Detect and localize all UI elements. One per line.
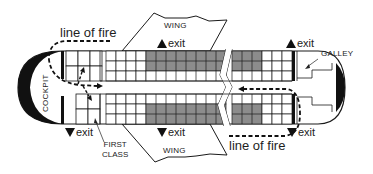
exit-label: exit [298,126,315,138]
aft-seats-top [232,51,292,81]
cockpit-bulkhead-top [61,51,64,79]
cockpit-bulkhead-bottom [61,96,64,124]
arrow-back-icon [238,86,244,92]
first-class-seats-top [66,51,102,81]
line-of-fire-label-bottom: line of fire [229,139,285,152]
exit-down-arrow-icon [65,128,75,137]
exit-up-arrow-icon [157,39,167,48]
exit-bottom-front: exit [65,127,93,138]
aft-seats-bottom [232,94,292,124]
exit-top-rear: exit [286,38,314,49]
economy-front-seats-bottom [106,94,146,124]
exit-bottom-wing: exit [157,127,185,138]
cockpit-nose-fill [18,51,62,124]
exit-label: exit [168,37,185,49]
economy-front-seats-top [106,51,146,81]
wing-label-bottom: WING [163,147,186,155]
arrow-forward-icon [97,83,103,89]
galley-label: GALLEY [321,50,353,58]
cockpit-label: COCKPIT [41,74,50,112]
rear-bulkhead-bottom [292,94,295,124]
exit-up-arrow-icon [286,39,296,48]
line-of-fire-label-top: line of fire [60,26,116,39]
exit-down-arrow-icon [157,128,167,137]
first-class-label: FIRST CLASS [102,140,128,160]
exit-top-wing: exit [157,38,185,49]
exit-down-arrow-icon [287,128,297,137]
first-class-line1: FIRST [102,140,128,150]
first-class-pointer [96,122,104,142]
wing-seats-bottom [146,94,226,124]
exit-label: exit [297,37,314,49]
exit-label: exit [168,126,185,138]
galley-rear-wall [336,63,345,112]
exit-label: exit [76,126,93,138]
rear-bulkhead-top [292,51,295,81]
exit-bottom-rear: exit [287,127,315,138]
first-class-line2: CLASS [102,150,128,160]
wing-label-top: WING [164,22,187,30]
aircraft-cabin-diagram: line of fire line of fire WING WING exit… [0,0,373,174]
wing-seats-top [146,51,226,81]
